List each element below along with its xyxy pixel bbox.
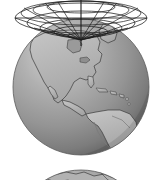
globe-wireframe-figure: [0, 0, 158, 180]
island-arc: [124, 176, 134, 180]
globe-secondary: [13, 167, 149, 180]
figure-canvas: [0, 0, 158, 180]
globe-secondary-landmasses: [26, 167, 134, 180]
